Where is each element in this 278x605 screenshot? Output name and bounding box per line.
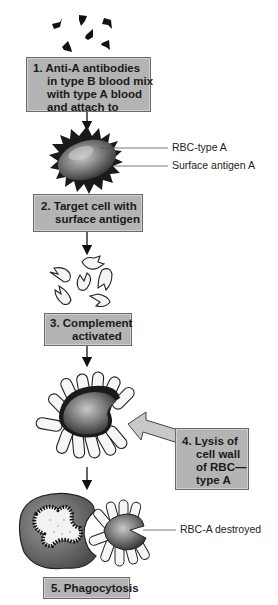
step-2-number: 2. <box>41 200 51 212</box>
step-4-number: 4. <box>182 435 192 447</box>
destroyed-rbc-cell <box>88 500 151 566</box>
step-4-line-3: of RBC— <box>182 461 248 474</box>
step-1-line-2: in type B blood mix <box>33 75 150 88</box>
complement-protein-icons <box>50 256 112 307</box>
rbc-type-a-cell <box>49 126 123 194</box>
label-rbc-type-a: RBC-type A <box>172 141 227 153</box>
step-2-line-1: Target cell with <box>54 200 137 212</box>
step-1-line-3: with type A blood <box>33 88 150 101</box>
step-4-line-4: type A <box>182 474 248 487</box>
step-3-number: 3. <box>50 317 60 329</box>
step-2-line-2: surface antigen <box>41 213 142 226</box>
step-1-box: 1. Anti-A antibodies in type B blood mix… <box>26 57 151 112</box>
antibody-icons <box>52 15 112 52</box>
step-5-line-1: Phagocytosis <box>64 582 139 594</box>
label-rbc-a-destroyed: RBC-A destroyed <box>180 523 261 535</box>
step-5-number: 5. <box>51 582 61 594</box>
lysis-pointer-arrow <box>128 412 178 442</box>
step-1-number: 1. <box>33 62 43 74</box>
lysing-rbc-cell <box>35 372 136 459</box>
step-3-line-1: Complement <box>63 317 133 329</box>
step-3-box: 3. Complement activated <box>44 313 132 346</box>
step-1-line-1: Anti-A antibodies <box>45 62 140 74</box>
step-4-line-2: cell wall <box>182 448 248 461</box>
step-1-line-4: and attach to <box>33 101 150 114</box>
label-surface-antigen-a: Surface antigen A <box>172 159 255 171</box>
phagocyte-cell <box>20 493 97 568</box>
step-2-box: 2. Target cell with surface antigen <box>33 194 143 232</box>
step-3-line-2: activated <box>50 330 131 343</box>
step-5-box: 5. Phagocytosis <box>43 577 130 599</box>
step-4-line-1: Lysis of <box>195 435 238 447</box>
step-4-box: 4. Lysis of cell wall of RBC— type A <box>175 428 249 490</box>
